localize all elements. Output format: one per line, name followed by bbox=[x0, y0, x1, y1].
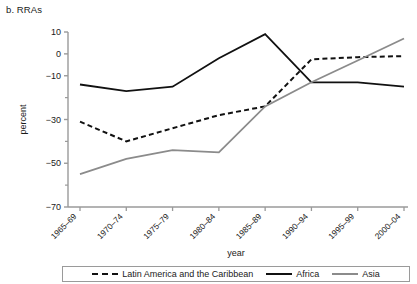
plot-area: 100−10−30−50−701965–691970–741975–791980… bbox=[0, 0, 417, 284]
figure-rras-chart: b. RRAs 100−10−30−50−701965–691970–74197… bbox=[0, 0, 417, 284]
y-tick-label: 10 bbox=[51, 27, 61, 37]
series-lines bbox=[80, 34, 404, 174]
line-chart-svg: 100−10−30−50−701965–691970–741975–791980… bbox=[0, 0, 417, 284]
y-tick-label: −30 bbox=[46, 115, 61, 125]
x-tick-label: 1970–74 bbox=[95, 211, 125, 241]
x-axis-title: year bbox=[227, 248, 245, 258]
legend-item-latin-america: Latin America and the Caribbean bbox=[92, 270, 253, 279]
tick-labels: 100−10−30−50−701965–691970–741975–791980… bbox=[18, 27, 403, 258]
x-tick-label: 1995–99 bbox=[326, 211, 356, 241]
axes bbox=[64, 32, 408, 211]
legend-swatch-dashed-icon bbox=[92, 273, 118, 275]
x-tick-label: 1965–69 bbox=[48, 211, 78, 241]
series-line-asia bbox=[80, 39, 404, 175]
legend-label-latin-america: Latin America and the Caribbean bbox=[122, 270, 253, 279]
legend-label-asia: Asia bbox=[362, 270, 380, 279]
y-axis-title: percent bbox=[18, 104, 28, 135]
y-tick-label: 0 bbox=[56, 49, 61, 59]
y-tick-label: −50 bbox=[46, 158, 61, 168]
series-line-africa bbox=[80, 34, 404, 91]
chart-legend: Latin America and the Caribbean Africa A… bbox=[62, 266, 410, 282]
x-tick-label: 1975–79 bbox=[141, 211, 171, 241]
legend-label-africa: Africa bbox=[296, 270, 319, 279]
y-tick-label: −10 bbox=[46, 71, 61, 81]
x-tick-label: 1980–84 bbox=[187, 211, 217, 241]
x-tick-label: 1990–94 bbox=[280, 211, 310, 241]
x-tick-label: 1985–89 bbox=[234, 211, 264, 241]
x-tick-label: 2000–04 bbox=[372, 211, 402, 241]
y-tick-label: −70 bbox=[46, 202, 61, 212]
legend-swatch-solid-gray-icon bbox=[332, 273, 358, 275]
legend-item-asia: Asia bbox=[332, 270, 380, 279]
legend-item-africa: Africa bbox=[266, 270, 319, 279]
legend-swatch-solid-dark-icon bbox=[266, 273, 292, 275]
